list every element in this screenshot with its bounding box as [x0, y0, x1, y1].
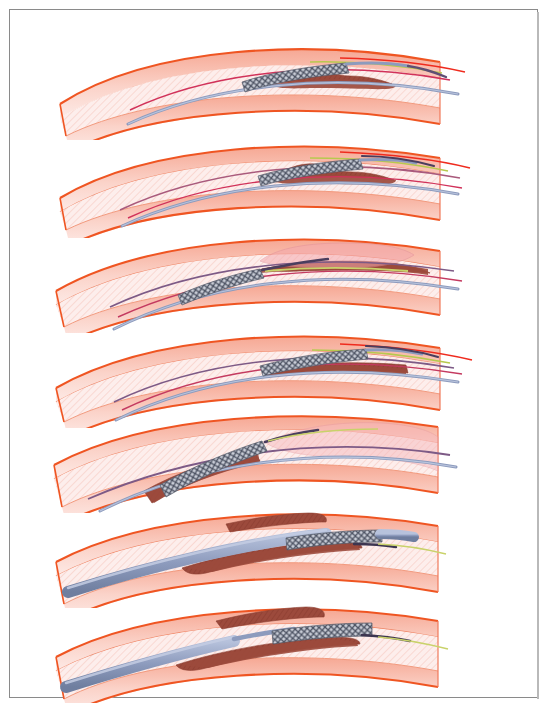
panel-c: c Balloon inflated distally dilating the…	[10, 225, 539, 325]
figure-frame: a Guidewire advanced across the stenosis…	[9, 9, 538, 698]
panel-a: a Guidewire advanced across the stenosis…	[10, 32, 539, 132]
vessel-diagram-f	[10, 500, 539, 608]
vessel-diagram-b	[10, 130, 539, 238]
vessel-diagram-g	[10, 595, 539, 703]
panel-b: b Crimped stent advanced so it straddles…	[10, 130, 539, 230]
vessel-diagram-e	[10, 405, 539, 513]
panel-f: f Guide catheter with crimped stent adva…	[10, 500, 539, 600]
vessel-diagram-a	[10, 32, 539, 140]
vessel-diagram-c	[10, 225, 539, 333]
panel-g: g Stent positioned at the target lesion …	[10, 595, 539, 695]
panel-e: e Stent deployed proximally while the ba…	[10, 405, 539, 505]
